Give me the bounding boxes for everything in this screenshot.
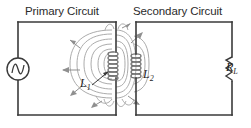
magnetic-field-lines bbox=[70, 24, 149, 107]
secondary-circuit-heading: Secondary Circuit bbox=[133, 5, 222, 17]
field-line-lower-whorl-4 bbox=[116, 100, 126, 107]
field-line-right-1 bbox=[116, 30, 136, 98]
inductor-l1-label-text: L bbox=[80, 76, 87, 90]
circuit-diagram-root: Primary Circuit Secondary Circuit L1 L2 … bbox=[0, 0, 251, 128]
load-resistor-label-subscript: L bbox=[233, 67, 237, 76]
field-line-upper-whorl-2 bbox=[118, 24, 128, 30]
inductor-l1-label: L1 bbox=[80, 76, 91, 92]
ac-source bbox=[7, 58, 29, 80]
field-arrow-bottom-center bbox=[91, 101, 102, 108]
field-line-right-3 bbox=[116, 41, 128, 87]
inductor-l1-label-subscript: 1 bbox=[87, 83, 91, 92]
field-direction-arrows bbox=[62, 23, 143, 108]
field-line-upper-whorl-1 bbox=[105, 24, 114, 30]
field-arrow-bottom-right bbox=[128, 96, 140, 105]
load-resistor-label: RL bbox=[226, 60, 238, 76]
inductor-l2-label: L2 bbox=[143, 67, 154, 83]
field-arrow-upper-right bbox=[131, 32, 143, 43]
field-line-right-2 bbox=[116, 35, 132, 93]
field-line-right-4 bbox=[117, 47, 125, 81]
circuit-diagram-canvas bbox=[0, 0, 251, 128]
primary-circuit-heading: Primary Circuit bbox=[25, 5, 99, 17]
inductor-l2-label-subscript: 2 bbox=[150, 74, 154, 83]
field-line-lower-whorl-3 bbox=[122, 99, 134, 105]
inductor-l1-coil bbox=[108, 52, 118, 80]
inductor-l2-coil bbox=[131, 54, 141, 78]
inductor-l2-label-text: L bbox=[143, 67, 150, 81]
